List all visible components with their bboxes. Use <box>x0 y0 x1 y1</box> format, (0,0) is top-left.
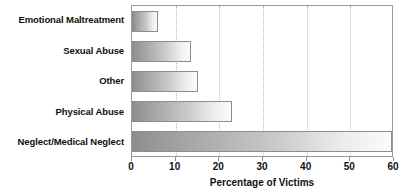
bar-row <box>132 11 392 32</box>
x-axis-tick-label: 50 <box>344 162 355 172</box>
category-label: Physical Abuse <box>56 107 128 117</box>
x-axis-title: Percentage of Victims <box>131 178 393 188</box>
x-axis-tick-label: 10 <box>169 162 180 172</box>
bar-row <box>132 101 392 122</box>
bar <box>132 101 232 122</box>
category-label: Sexual Abuse <box>63 46 128 56</box>
bar <box>132 41 191 62</box>
x-axis-tick-label: 20 <box>213 162 224 172</box>
bar <box>132 71 198 92</box>
bar <box>132 131 392 152</box>
bar-row <box>132 71 392 92</box>
bar <box>132 11 158 32</box>
bar-chart: Emotional Maltreatment Sexual Abuse Othe… <box>0 0 408 196</box>
x-axis-tick-label: 30 <box>256 162 267 172</box>
category-label: Other <box>99 76 128 86</box>
x-axis-tick-label: 60 <box>387 162 398 172</box>
category-label: Neglect/Medical Neglect <box>18 137 128 147</box>
x-axis-tick-label: 40 <box>300 162 311 172</box>
bar-row <box>132 41 392 62</box>
bar-series <box>132 6 392 156</box>
category-label: Emotional Maltreatment <box>19 15 128 25</box>
x-axis-tick-labels: 0102030405060 <box>131 162 393 176</box>
category-axis-labels: Emotional Maltreatment Sexual Abuse Othe… <box>0 5 128 157</box>
x-axis-tick-label: 0 <box>128 162 134 172</box>
plot-area <box>131 5 393 157</box>
bar-row <box>132 131 392 152</box>
